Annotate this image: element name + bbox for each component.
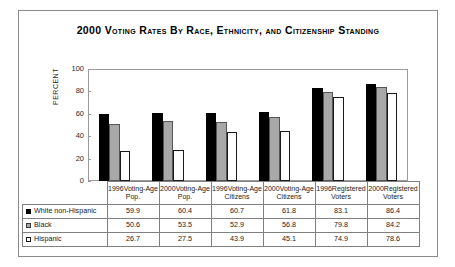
table-cell: 60.7 <box>211 205 263 219</box>
legend-row-label: Black <box>23 219 108 233</box>
y-axis-tick-mark <box>88 69 91 70</box>
bar <box>173 150 184 181</box>
column-header: 2000Voting-Age Citizens <box>263 182 315 205</box>
y-axis-ticks: 100806040200 <box>56 69 84 181</box>
y-axis-title: PERCENT <box>52 68 59 105</box>
bar <box>323 92 334 181</box>
table-cell: 84.2 <box>367 219 419 233</box>
bar-group <box>88 69 141 181</box>
column-header: 2000Voting-Age Pop. <box>159 182 211 205</box>
table-cell: 60.4 <box>159 205 211 219</box>
bar <box>269 117 280 181</box>
y-axis-tick-label: 80 <box>58 88 84 96</box>
table-cell: 43.9 <box>211 233 263 247</box>
column-header: 1996Voting-Age Citizens <box>211 182 263 205</box>
table-row: Black50.653.552.956.879.884.2 <box>23 219 420 233</box>
table-cell: 27.5 <box>159 233 211 247</box>
legend-label-text: Black <box>34 220 52 229</box>
table-row: Hispanic26.727.543.945.174.978.6 <box>23 233 420 247</box>
bar <box>333 97 344 181</box>
bar <box>216 122 227 181</box>
table-cell: 61.8 <box>263 205 315 219</box>
legend-swatch-icon <box>26 223 31 228</box>
table-header-row: 1996Voting-Age Pop. 2000Voting-Age Pop. … <box>23 182 420 205</box>
y-axis-tick-label: 100 <box>58 65 84 73</box>
column-header-line2: Voters <box>316 193 367 201</box>
table-corner-cell <box>23 182 108 205</box>
column-header: 2000Registered Voters <box>367 182 419 205</box>
y-axis-tick-label: 20 <box>58 155 84 163</box>
bar <box>376 87 387 181</box>
legend-row-label: Hispanic <box>23 233 108 247</box>
y-axis-tick-mark <box>88 159 91 160</box>
column-header-line1: 2000Voting-Age <box>264 185 315 193</box>
bar-group <box>195 69 248 181</box>
bar-group <box>355 69 408 181</box>
legend-swatch-icon <box>26 237 31 242</box>
bar <box>387 93 398 181</box>
y-axis-tick-mark <box>88 114 91 115</box>
column-header-line2: Citizens <box>264 193 315 201</box>
bar <box>366 84 377 181</box>
chart-figure: 2000 Voting Rates By Race, Ethnicity, an… <box>0 0 455 267</box>
legend-row-label: White non-Hispanic <box>23 205 108 219</box>
bar <box>152 113 163 181</box>
table-cell: 59.9 <box>107 205 159 219</box>
column-header-line1: 2000Voting-Age <box>160 185 211 193</box>
bar <box>280 131 291 182</box>
column-header-line1: 1996Voting-Age <box>212 185 263 193</box>
bar-group <box>141 69 194 181</box>
column-header-line1: 1996Registered <box>316 185 367 193</box>
legend-label-text: Hispanic <box>34 234 62 243</box>
legend-swatch-icon <box>26 209 31 214</box>
y-axis-tick-mark <box>88 91 91 92</box>
bar <box>206 113 217 181</box>
table-cell: 52.9 <box>211 219 263 233</box>
table-body: White non-Hispanic59.960.460.761.883.186… <box>23 205 420 247</box>
table-cell: 50.6 <box>107 219 159 233</box>
bar <box>120 151 131 181</box>
table-row: White non-Hispanic59.960.460.761.883.186… <box>23 205 420 219</box>
plot-area <box>88 69 408 181</box>
bar <box>99 114 110 181</box>
column-header-line1: 2000Registered <box>368 185 419 193</box>
bar <box>227 132 238 181</box>
table-cell: 79.8 <box>315 219 367 233</box>
bar <box>163 121 174 181</box>
bar-group <box>301 69 354 181</box>
column-header-line1: 1996Voting-Age <box>108 185 159 193</box>
table-cell: 45.1 <box>263 233 315 247</box>
column-header-line2: Pop. <box>160 193 211 201</box>
y-axis-tick-label: 40 <box>58 132 84 140</box>
column-header-line2: Citizens <box>212 193 263 201</box>
bar <box>259 112 270 181</box>
bar <box>312 88 323 181</box>
table-cell: 83.1 <box>315 205 367 219</box>
bar-group <box>248 69 301 181</box>
table-cell: 78.6 <box>367 233 419 247</box>
data-table: 1996Voting-Age Pop. 2000Voting-Age Pop. … <box>22 181 420 247</box>
column-header: 1996Voting-Age Pop. <box>107 182 159 205</box>
chart-title: 2000 Voting Rates By Race, Ethnicity, an… <box>18 24 438 36</box>
y-axis-tick-mark <box>88 136 91 137</box>
table-cell: 86.4 <box>367 205 419 219</box>
column-header: 1996Registered Voters <box>315 182 367 205</box>
bar <box>109 124 120 181</box>
table-cell: 26.7 <box>107 233 159 247</box>
table-cell: 56.8 <box>263 219 315 233</box>
legend-label-text: White non-Hispanic <box>34 206 96 215</box>
table-cell: 74.9 <box>315 233 367 247</box>
column-header-line2: Pop. <box>108 193 159 201</box>
y-axis-tick-mark <box>88 181 91 182</box>
y-axis-tick-label: 60 <box>58 110 84 118</box>
column-header-line2: Voters <box>368 193 419 201</box>
table-cell: 53.5 <box>159 219 211 233</box>
